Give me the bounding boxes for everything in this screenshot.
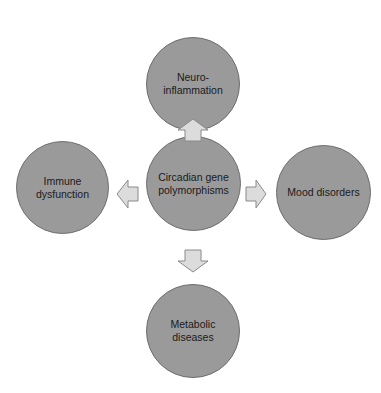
arrow-up-icon [178, 119, 208, 141]
arrow-right-icon [246, 180, 266, 208]
arrow-down-icon [178, 250, 208, 272]
arrows-layer [0, 0, 381, 393]
arrow-left-icon [117, 180, 138, 208]
